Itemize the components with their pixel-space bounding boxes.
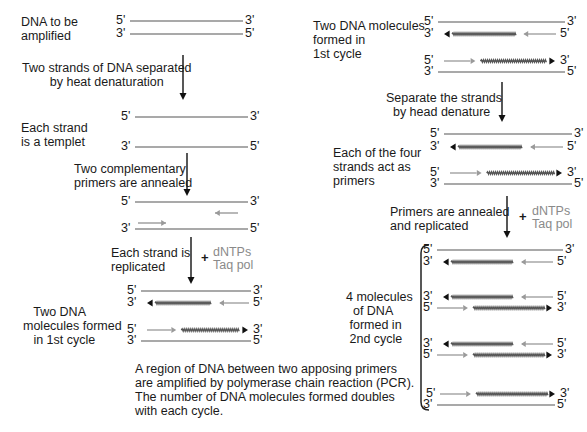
arrow-down-icon — [188, 277, 195, 284]
strand-end-label: 3' — [121, 140, 130, 152]
reagent-dntps-label: dNTPs — [532, 204, 570, 218]
strand-end-label: 3' — [423, 255, 432, 267]
strand-end-label: 3' — [574, 127, 583, 139]
synthesized-strand — [155, 302, 211, 304]
arrowhead-icon — [242, 327, 248, 334]
arrowhead-icon — [556, 170, 562, 177]
synthesized-strand — [451, 296, 513, 298]
arrowhead-icon — [521, 294, 526, 300]
strand-end-label: 5' — [245, 27, 254, 39]
strand-end-label: 3' — [250, 195, 259, 207]
strand-end-label: 5' — [121, 195, 130, 207]
anneal-replicate-step-label: Primers are annealed and replicated — [390, 205, 510, 233]
strand-end-label: 3' — [430, 140, 439, 152]
strand-end-label: 5' — [121, 110, 130, 122]
arrowhead-icon — [549, 58, 555, 65]
arrowhead-icon — [443, 294, 449, 301]
arrowhead-icon — [546, 305, 552, 312]
arrowhead-icon — [444, 31, 450, 38]
strand-end-label: 5' — [557, 398, 566, 410]
strand-end-label: 3' — [245, 14, 254, 26]
strand-end-label: 5' — [574, 177, 583, 189]
strand-end-label: 3' — [565, 243, 574, 255]
synthesized-strand — [473, 307, 545, 309]
arrowhead-icon — [443, 341, 449, 348]
first-cycle-result-label: Two DNA molecules formed in 1st cycle — [23, 305, 122, 347]
reagent-taq-pol-label: Taq pol — [213, 258, 253, 272]
second-cycle-result-label: 4 molecules of DNA formed in 2nd cycle — [346, 290, 413, 346]
synthesized-strand — [480, 60, 546, 62]
strand-end-label: 5' — [430, 127, 439, 139]
strand-end-label: 3' — [127, 296, 136, 308]
reagent-taq-pol-label: Taq pol — [532, 217, 572, 231]
strand-end-label: 5' — [253, 296, 262, 308]
synthesized-strand — [476, 393, 548, 395]
strand-end-label: 3' — [557, 301, 566, 313]
strand-end-label: 5' — [423, 348, 432, 360]
arrowhead-icon — [463, 352, 468, 358]
strand-end-label: 5' — [250, 222, 259, 234]
arrowhead-icon — [523, 31, 528, 37]
arrowhead-icon — [521, 341, 526, 347]
synthesized-strand — [487, 172, 555, 174]
strand-end-label: 5' — [116, 14, 125, 26]
arrowhead-icon — [161, 220, 166, 226]
dna-to-be-amplified-label: DNA to be amplified — [21, 15, 78, 43]
strand-end-label: 3' — [430, 177, 439, 189]
synthesized-strand — [451, 343, 513, 345]
arrow-down-icon — [184, 189, 191, 196]
strand-separation-step-label: Separate the strands by head denature — [386, 91, 502, 119]
synthesized-strand — [458, 146, 522, 148]
strand-end-label: 3' — [116, 27, 125, 39]
strand-template-label: Each strand is a templet — [21, 121, 88, 149]
arrowhead-icon — [549, 391, 555, 398]
strand-end-label: 3' — [121, 222, 130, 234]
strand-end-label: 5' — [253, 334, 262, 346]
arrowhead-icon — [450, 144, 456, 151]
strand-end-label: 3' — [424, 65, 433, 77]
heat-denaturation-step-label: Two strands of DNA separated by heat den… — [22, 61, 192, 89]
arrowhead-icon — [466, 391, 471, 397]
strand-end-label: 5' — [560, 27, 569, 39]
strand-end-label: 5' — [423, 301, 432, 313]
arrowhead-icon — [546, 352, 552, 359]
strand-end-label: 5' — [250, 140, 259, 152]
strand-end-label: 5' — [557, 255, 566, 267]
plus-icon: + — [201, 250, 209, 265]
first-cycle-molecules-label: Two DNA molecules formed in 1st cycle — [313, 19, 425, 61]
reagent-dntps-label: dNTPs — [213, 245, 251, 259]
synthesized-strand — [452, 33, 516, 35]
four-strands-primers-label: Each of the four strands act as primers — [333, 146, 421, 188]
synthesized-strand — [181, 329, 239, 331]
strand-end-label: 3' — [250, 110, 259, 122]
arrow-down-icon — [180, 93, 187, 100]
strand-end-label: 3' — [557, 348, 566, 360]
replication-step-label: Each strand is replicated — [111, 246, 190, 274]
arrowhead-icon — [530, 144, 535, 150]
arrowhead-icon — [219, 300, 224, 306]
plus-icon: + — [519, 209, 527, 224]
strand-end-label: 3' — [127, 334, 136, 346]
strand-end-label: 5' — [567, 65, 576, 77]
synthesized-strand — [473, 354, 545, 356]
arrowhead-icon — [171, 327, 176, 333]
arrowhead-icon — [471, 58, 476, 64]
arrowhead-icon — [521, 259, 526, 265]
strand-end-label: 3' — [424, 27, 433, 39]
arrowhead-icon — [477, 170, 482, 176]
arrowhead-icon — [147, 300, 153, 307]
primer-annealing-step-label: Two complementary primers are annealed — [74, 162, 192, 190]
strand-end-label: 3' — [423, 398, 432, 410]
pcr-caption: A region of DNA between two apposing pri… — [135, 362, 414, 418]
arrowhead-icon — [463, 305, 468, 311]
synthesized-strand — [451, 261, 513, 263]
arrowhead-icon — [215, 210, 220, 216]
arrowhead-icon — [443, 259, 449, 266]
strand-end-label: 5' — [567, 140, 576, 152]
